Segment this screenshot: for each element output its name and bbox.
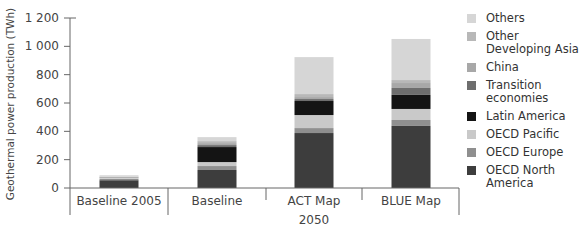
bar-segment [100,180,139,188]
bar-act-map [295,57,334,188]
bar-segment [392,39,431,80]
bar-segment [295,133,334,188]
legend-item: China [467,61,581,74]
bar-segment [392,109,431,120]
x-axis: Baseline 2005BaselineACT MapBLUE Map2050 [70,188,459,227]
bar-segment [295,57,334,94]
legend-item: Others [467,12,581,25]
bar-segment [100,178,139,179]
bar-segment [392,80,431,83]
legend-item: Transition economies [467,79,581,105]
x-category-label: Baseline [192,194,243,208]
y-tick-label: 800 [36,68,59,82]
legend-item: OECD North America [467,164,581,190]
bar-segment [295,115,334,128]
bar-segment [198,166,237,170]
y-axis: 02004006008001 0001 200 [25,11,76,215]
legend-item: OECD Pacific [467,128,581,141]
bar-baseline [198,137,237,188]
bar-segment [295,101,334,115]
bar-blue-map [392,39,431,188]
legend: OthersOther Developing AsiaChinaTransiti… [467,12,581,195]
y-tick-label: 1 000 [25,39,59,53]
bar-segment [198,137,237,141]
bar-baseline-2005 [100,175,139,188]
bar-segment [100,177,139,178]
legend-item: OECD Europe [467,146,581,159]
legend-swatch [467,130,476,139]
y-axis-label: Geothermal power production (TWh) [4,8,16,200]
bar-segment [198,143,237,145]
bar-segment [392,126,431,188]
legend-swatch [467,32,476,41]
x-category-label: BLUE Map [381,194,441,208]
bar-segment [295,94,334,97]
bar-segment [392,83,431,88]
y-tick-label: 0 [51,181,59,195]
bar-segment [392,120,431,126]
legend-swatch [467,166,476,175]
legend-item: Latin America [467,110,581,123]
x-category-label: ACT Map [288,194,341,208]
bar-segment [100,175,139,176]
bar-segment [392,95,431,109]
x-category-label: Baseline 2005 [76,194,161,208]
bar-segment [295,99,334,101]
bar-segment [295,97,334,99]
bar-segment [198,141,237,143]
legend-item: Other Developing Asia [467,30,581,56]
legend-label: OECD Pacific [486,127,559,141]
legend-label: China [486,60,519,74]
legend-label: OECD North America [486,163,555,190]
legend-swatch [467,112,476,121]
y-tick-label: 200 [36,153,59,167]
y-tick-label: 600 [36,96,59,110]
bar-segment [198,145,237,147]
bar-segment [198,147,237,162]
legend-swatch [467,14,476,23]
legend-label: Transition economies [486,78,548,105]
legend-swatch [467,63,476,72]
legend-label: Others [486,11,525,25]
x-group-label: 2050 [299,213,330,227]
bars [100,39,431,188]
bar-segment [198,170,237,188]
y-tick-label: 1 200 [25,11,59,25]
bar-segment [100,179,139,180]
legend-label: Other Developing Asia [486,29,579,56]
y-tick-label: 400 [36,124,59,138]
bar-segment [198,162,237,166]
legend-label: OECD Europe [486,145,563,159]
bar-segment [295,128,334,133]
legend-swatch [467,81,476,90]
legend-swatch [467,148,476,157]
legend-label: Latin America [486,109,566,123]
bar-segment [392,88,431,95]
